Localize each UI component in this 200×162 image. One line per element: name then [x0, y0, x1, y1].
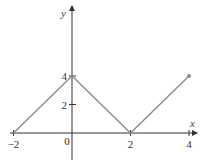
tick-labels: −202424 — [8, 70, 193, 150]
x-tick-label: 0 — [64, 135, 70, 147]
y-tick-label: 4 — [62, 70, 68, 82]
endpoint-marker — [187, 74, 191, 78]
piecewise-linear-chart: −202424 x y — [0, 0, 200, 162]
y-tick-label: 2 — [62, 99, 68, 111]
x-tick-label: 2 — [128, 138, 134, 150]
axis-ticks — [14, 76, 190, 136]
x-tick-label: 4 — [186, 138, 192, 150]
data-line — [14, 76, 190, 133]
y-axis-label: y — [60, 7, 66, 19]
x-tick-label: −2 — [8, 138, 20, 150]
x-axis-label: x — [189, 117, 195, 129]
